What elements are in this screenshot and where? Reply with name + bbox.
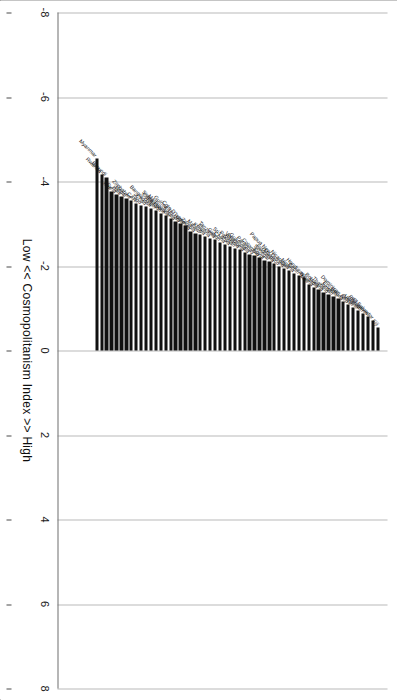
bar [321,292,324,350]
bar [341,301,344,350]
bar [104,177,107,350]
bar [100,174,103,350]
axis-title: Low << Cosmopolitanism Index >> High [19,12,33,688]
bar [292,273,295,350]
bar [124,198,127,350]
bar [139,205,142,350]
tick-mark [6,519,11,520]
bar [346,304,349,350]
bar [119,196,122,350]
tick-mark [6,688,11,689]
bar [262,260,265,350]
tick-mark [6,181,11,182]
tick-label: 4 [38,516,50,522]
tick-label: -4 [38,176,50,186]
bar [302,277,305,350]
bar [178,223,181,350]
plot-area: FijiEl SalvadorPhilippinesBahrainUkraine… [57,12,387,688]
bar [154,210,157,350]
tick-label: 8 [38,685,50,691]
tick-label: 2 [38,431,50,437]
bar [287,270,290,350]
bar [223,244,226,350]
bar [95,158,98,350]
rotated-chart-canvas: FijiEl SalvadorPhilippinesBahrainUkraine… [0,0,397,700]
tick-mark [6,435,11,436]
bar [272,263,275,350]
bar [129,200,132,350]
bar [297,275,300,350]
bar [218,242,221,350]
bar [114,194,117,350]
tick-mark [6,97,11,98]
bar [233,248,236,350]
bar [159,213,162,350]
tick-label: 6 [38,600,50,606]
bar [208,238,211,350]
tick-label: -8 [38,7,50,17]
bar [238,249,241,350]
tick-label: 0 [38,347,50,353]
bar [326,294,329,350]
value-axis: -8-6-4-202468 Low << Cosmopolitanism Ind… [7,12,57,688]
tick-mark [6,12,11,13]
bar [228,246,231,350]
bar [164,215,167,350]
bar-series: FijiEl SalvadorPhilippinesBahrainUkraine… [57,12,387,688]
bar [282,268,285,350]
bar [361,313,364,350]
bar [257,257,260,350]
bar [149,208,152,350]
bar [267,261,270,350]
bar [252,255,255,350]
bar-label: Myanmar [78,138,98,158]
tick-label: -6 [38,92,50,102]
bar [203,236,206,350]
tick-label: -2 [38,261,50,271]
bar [376,327,379,350]
bar [109,191,112,350]
bar [193,233,196,350]
bar [213,239,216,350]
bar [371,320,374,350]
tick-mark [6,604,11,605]
tick-mark [6,350,11,351]
bar [277,266,280,351]
bar [169,218,172,350]
bar [247,254,250,350]
bar [351,307,354,350]
bar [183,225,186,350]
chart-page: FijiEl SalvadorPhilippinesBahrainUkraine… [0,0,397,700]
bar [198,234,201,350]
bar [188,231,191,350]
bar [243,252,246,350]
bar [307,284,310,350]
bar [331,296,334,350]
bar [312,287,315,350]
bar [336,298,339,350]
bar [144,206,147,350]
bar [317,289,320,350]
bar [134,203,137,350]
bar [174,221,177,350]
tick-mark [6,266,11,267]
bar [356,310,359,350]
bar [366,316,369,350]
